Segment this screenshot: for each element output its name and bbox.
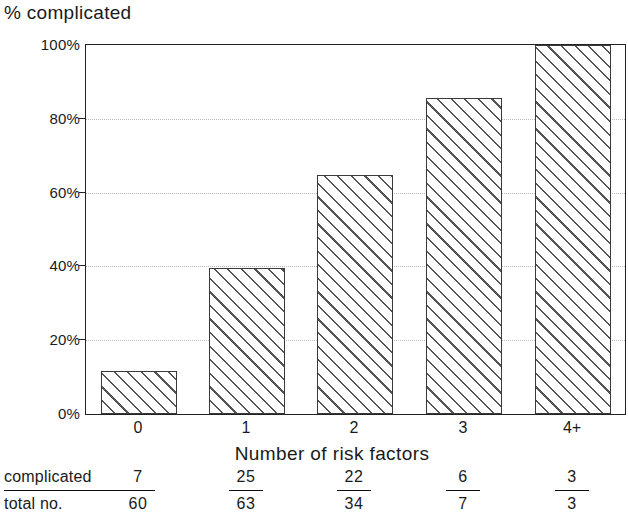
fraction-denominator: 3 (537, 493, 607, 515)
y-tick-label-40: 40% (10, 257, 80, 274)
bar-4 (535, 45, 611, 414)
fraction-numerator: 25 (211, 466, 281, 488)
fraction-3: 6 7 (428, 466, 498, 515)
bar-0 (101, 371, 177, 414)
x-axis-title: Number of risk factors (18, 443, 628, 465)
fraction-rule (555, 490, 589, 491)
y-tick-label-60: 60% (10, 184, 80, 201)
fraction-denominator: 7 (428, 493, 498, 515)
x-tick-label-4: 4+ (563, 419, 581, 437)
fraction-1: 25 63 (211, 466, 281, 515)
plot-area (85, 44, 626, 415)
bar-3 (426, 98, 502, 414)
x-tick-label-3: 3 (459, 419, 468, 437)
fraction-2: 22 34 (319, 466, 389, 515)
fraction-denominator: 60 (103, 493, 173, 515)
fraction-numerator: 6 (428, 466, 498, 488)
fraction-rule (337, 490, 371, 491)
bars-layer (86, 45, 625, 414)
y-tick-label-0: 0% (10, 405, 80, 422)
fraction-numerator: 22 (319, 466, 389, 488)
fraction-denominator: 63 (211, 493, 281, 515)
fraction-numerator: 7 (103, 466, 173, 488)
fraction-table: complicated total no. 7 60 25 63 22 34 6… (0, 466, 628, 529)
y-tick-label-100: 100% (10, 36, 80, 53)
bar-2 (317, 175, 393, 414)
chart-figure: % complicated 0% 20% 40% 60% 80% 100% 0 (0, 0, 628, 529)
y-tick-label-80: 80% (10, 110, 80, 127)
x-tick-label-2: 2 (350, 419, 359, 437)
fraction-rule (121, 490, 155, 491)
x-tick-label-0: 0 (134, 419, 143, 437)
x-tick-label-1: 1 (242, 419, 251, 437)
fraction-0: 7 60 (103, 466, 173, 515)
bar-1 (209, 268, 285, 414)
chart-title: % complicated (4, 2, 131, 24)
fraction-rule (446, 490, 480, 491)
fraction-numerator: 3 (537, 466, 607, 488)
fraction-denominator: 34 (319, 493, 389, 515)
fraction-4: 3 3 (537, 466, 607, 515)
fraction-rule (229, 490, 263, 491)
y-tick-label-20: 20% (10, 331, 80, 348)
